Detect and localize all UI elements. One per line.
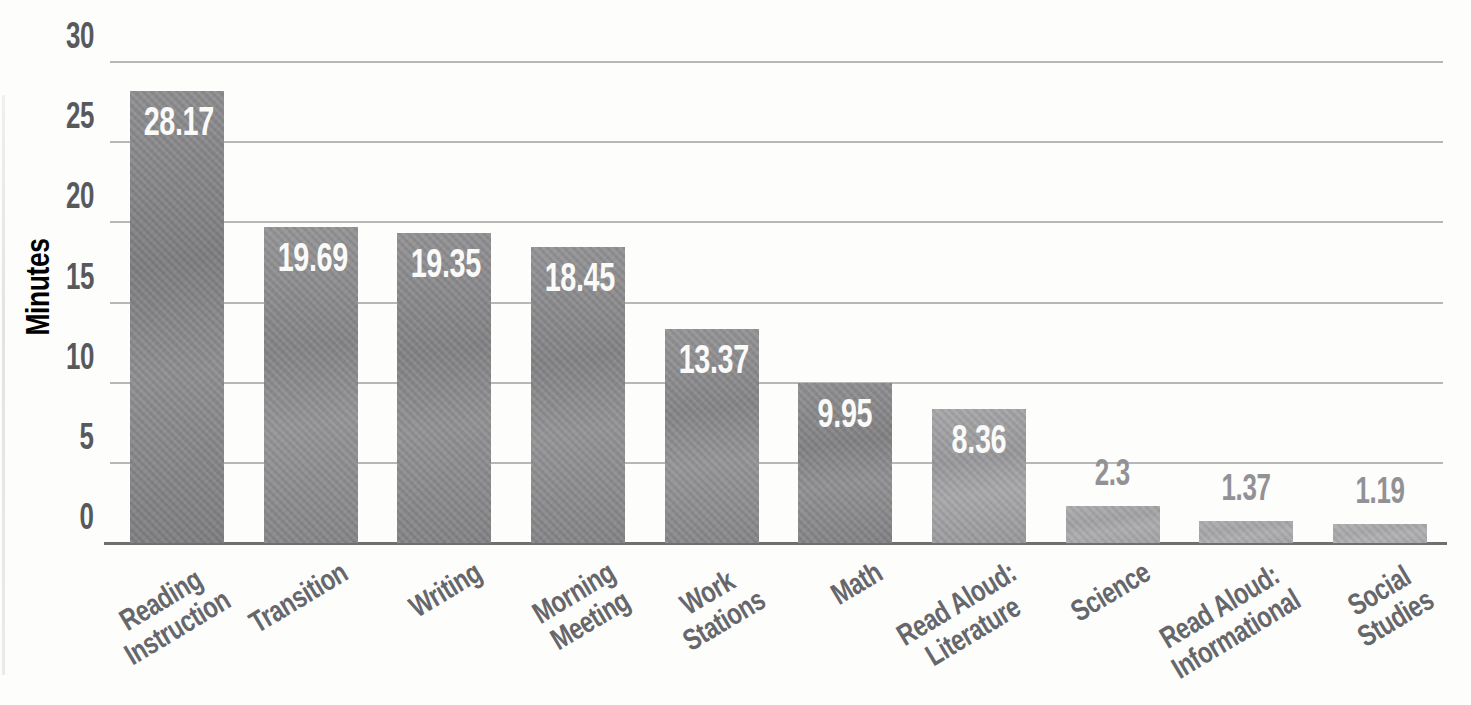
- category-text-morning-meeting: Morning Meeting: [527, 556, 636, 656]
- category-label-reading-instruction: Reading Instruction: [75, 556, 236, 687]
- y-tick-label-15: 15: [2, 256, 94, 298]
- category-label-read-aloud-literature: Read Aloud: Literature: [859, 556, 1037, 698]
- category-text-transition: Transition: [244, 556, 353, 639]
- value-text-read-aloud-informational: 1.37: [1222, 467, 1271, 509]
- value-text-reading-instruction: 28.17: [144, 99, 214, 144]
- slot-read-aloud-literature: 8.36Read Aloud: Literature: [912, 62, 1046, 543]
- category-text-read-aloud-literature: Read Aloud: Literature: [891, 556, 1037, 678]
- value-label-transition: 19.69: [264, 235, 358, 280]
- category-label-social-studies: Social Studies: [1316, 556, 1438, 664]
- category-label-writing: Writing: [385, 556, 486, 634]
- value-text-math: 9.95: [818, 391, 873, 436]
- value-label-math: 9.95: [798, 391, 892, 436]
- category-label-transition: Transition: [218, 556, 353, 654]
- category-label-math: Math: [813, 556, 888, 618]
- slot-social-studies: 1.19Social Studies: [1313, 62, 1447, 543]
- value-label-science: 2.3: [1036, 452, 1190, 494]
- y-tick-label-0: 0: [2, 496, 94, 538]
- bar-chart-scanned-page: Minutes 05101520253028.17Reading Instruc…: [0, 0, 1471, 705]
- y-tick-label-30: 30: [2, 15, 94, 57]
- y-tick-text-20: 20: [66, 176, 94, 218]
- bar-work-stations: 13.37: [665, 329, 759, 543]
- y-tick-label-25: 25: [2, 95, 94, 137]
- slot-work-stations: 13.37Work Stations: [645, 62, 779, 543]
- y-tick-text-0: 0: [80, 496, 94, 538]
- value-text-science: 2.3: [1095, 452, 1130, 494]
- value-label-writing: 19.35: [397, 241, 491, 286]
- value-text-morning-meeting: 18.45: [545, 255, 615, 300]
- bar-reading-instruction: 28.17: [130, 91, 224, 543]
- bar-texture-social-studies: [1333, 524, 1427, 543]
- bar-math: 9.95: [798, 383, 892, 543]
- y-tick-text-10: 10: [66, 336, 94, 378]
- slot-transition: 19.69Transition: [244, 62, 378, 543]
- category-label-science: Science: [1045, 556, 1155, 640]
- slot-reading-instruction: 28.17Reading Instruction: [110, 62, 244, 543]
- slot-read-aloud-informational: 1.37Read Aloud: Informational: [1180, 62, 1314, 543]
- category-text-math: Math: [826, 556, 888, 610]
- value-label-reading-instruction: 28.17: [130, 99, 224, 144]
- category-text-writing: Writing: [404, 556, 487, 623]
- bar-texture-science: [1066, 506, 1160, 543]
- value-text-social-studies: 1.19: [1356, 470, 1405, 512]
- value-text-read-aloud-literature: 8.36: [952, 417, 1007, 462]
- value-label-read-aloud-informational: 1.37: [1169, 467, 1323, 509]
- category-text-reading-instruction: Reading Instruction: [103, 556, 235, 670]
- y-tick-label-10: 10: [2, 336, 94, 378]
- bar-social-studies: 1.19: [1333, 524, 1427, 543]
- category-text-science: Science: [1065, 556, 1155, 627]
- bar-read-aloud-informational: 1.37: [1199, 521, 1293, 543]
- category-text-work-stations: Work Stations: [661, 556, 770, 656]
- bar-read-aloud-literature: 8.36: [932, 409, 1026, 543]
- category-label-work-stations: Work Stations: [640, 556, 770, 669]
- value-label-social-studies: 1.19: [1303, 470, 1457, 512]
- value-label-read-aloud-literature: 8.36: [932, 417, 1026, 462]
- category-text-social-studies: Social Studies: [1336, 556, 1439, 652]
- slot-math: 9.95Math: [779, 62, 913, 543]
- value-label-morning-meeting: 18.45: [531, 255, 625, 300]
- bar-morning-meeting: 18.45: [531, 247, 625, 543]
- category-label-morning-meeting: Morning Meeting: [506, 556, 637, 669]
- bar-texture-read-aloud-informational: [1199, 521, 1293, 543]
- y-tick-text-15: 15: [66, 256, 94, 298]
- value-text-transition: 19.69: [277, 235, 347, 280]
- bar-texture-reading-instruction: [130, 91, 224, 543]
- bar-science: 2.3: [1066, 506, 1160, 543]
- y-tick-text-5: 5: [80, 416, 94, 458]
- plot-area: 05101520253028.17Reading Instruction19.6…: [110, 62, 1447, 543]
- bar-transition: 19.69: [264, 227, 358, 543]
- y-tick-text-25: 25: [66, 95, 94, 137]
- y-tick-text-30: 30: [66, 15, 94, 57]
- category-text-read-aloud-informational: Read Aloud: Informational: [1150, 556, 1305, 684]
- y-tick-label-20: 20: [2, 176, 94, 218]
- value-label-work-stations: 13.37: [665, 337, 759, 382]
- y-tick-label-5: 5: [2, 416, 94, 458]
- slot-writing: 19.35Writing: [377, 62, 511, 543]
- bar-writing: 19.35: [397, 233, 491, 543]
- value-text-writing: 19.35: [411, 241, 481, 286]
- value-text-work-stations: 13.37: [678, 337, 748, 382]
- slot-science: 2.3Science: [1046, 62, 1180, 543]
- slot-morning-meeting: 18.45Morning Meeting: [511, 62, 645, 543]
